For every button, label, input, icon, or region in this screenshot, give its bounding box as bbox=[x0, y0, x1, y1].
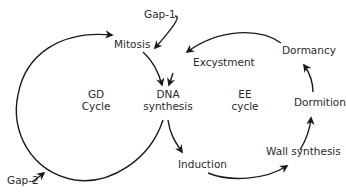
dormancy-to-excystment-arrow bbox=[187, 33, 281, 52]
ee-cycle-line1: EE bbox=[225, 88, 265, 100]
node-excystment: Excystment bbox=[193, 56, 255, 68]
gd-cycle-label: GD Cycle bbox=[76, 88, 116, 112]
gd-cycle-line1: GD bbox=[76, 88, 116, 100]
node-mitosis: Mitosis bbox=[114, 38, 150, 50]
node-gap1: Gap-1 bbox=[144, 8, 176, 20]
dna-line1: DNA bbox=[143, 88, 193, 100]
dormition-to-dormancy-arrow bbox=[304, 65, 313, 92]
node-dormition: Dormition bbox=[294, 96, 346, 108]
node-induction: Induction bbox=[178, 158, 227, 170]
dna-to-induction-arrow bbox=[168, 120, 182, 152]
mitosis-to-dna-arrow bbox=[143, 52, 162, 85]
dna-line2: synthesis bbox=[143, 100, 193, 112]
ee-cycle-label: EE cycle bbox=[225, 88, 265, 112]
node-gap2: Gap-2 bbox=[7, 174, 39, 186]
excystment-to-dna-arrow bbox=[169, 73, 173, 85]
node-wall-synthesis: Wall synthesis bbox=[266, 145, 341, 157]
node-dormancy: Dormancy bbox=[282, 44, 336, 56]
ee-cycle-line2: cycle bbox=[225, 100, 265, 112]
gap1-arrow bbox=[155, 16, 177, 48]
node-dna-synthesis: DNA synthesis bbox=[143, 88, 193, 112]
gd-cycle-line2: Cycle bbox=[76, 100, 116, 112]
